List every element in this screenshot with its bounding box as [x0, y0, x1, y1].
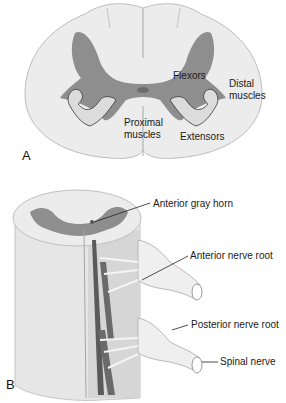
label-proximal-1: Proximal — [124, 117, 163, 128]
label-extensors: Extensors — [180, 131, 224, 142]
label-anterior-nerve-root: Anterior nerve root — [190, 250, 273, 261]
panel-letter-b: B — [6, 377, 15, 392]
label-flexors: Flexors — [173, 70, 206, 81]
label-distal-1: Distal — [229, 78, 254, 89]
cord-3d-b — [13, 190, 202, 400]
label-proximal-2: muscles — [124, 129, 161, 140]
label-posterior-nerve-root: Posterior nerve root — [191, 319, 279, 330]
panel-letter-a: A — [22, 148, 31, 163]
label-spinal-nerve: Spinal nerve — [220, 356, 276, 367]
label-distal-2: muscles — [229, 90, 266, 101]
label-anterior-gray-horn: Anterior gray horn — [153, 198, 233, 209]
spinal-cord-diagram — [0, 0, 286, 403]
